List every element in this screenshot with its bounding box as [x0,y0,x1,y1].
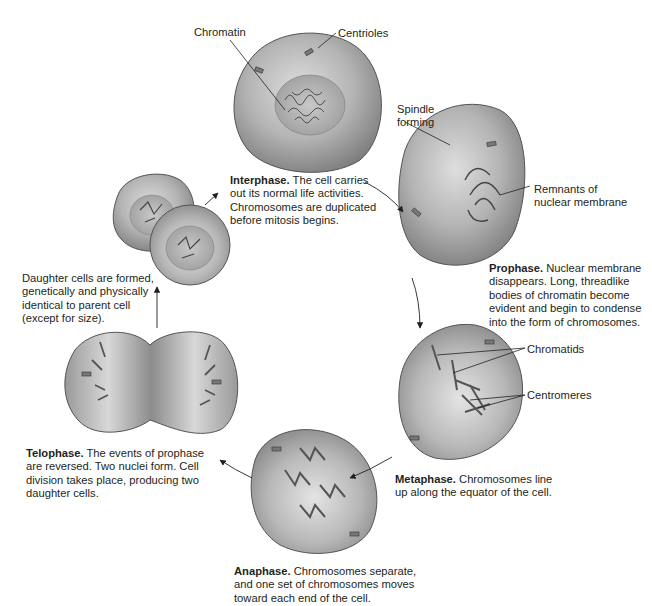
label-centrioles: Centrioles [338,27,388,40]
anaphase-caption: Anaphase. Chromosomes separate, and one … [234,565,424,605]
interphase-cell [234,33,381,172]
stage-name: Prophase. [489,262,543,274]
label-spindle-line1: Spindle [397,103,434,116]
interphase-caption: Interphase. The cell carries out its nor… [230,174,410,228]
stage-name: Interphase. [230,174,290,186]
label-remnants-line2: nuclear membrane [534,196,627,209]
label-chromatin: Chromatin [194,26,246,39]
stage-name: Anaphase. [234,565,291,577]
prophase-caption: Prophase. Nuclear membrane disappears. L… [489,262,652,329]
metaphase-caption: Metaphase. Chromosomes line up along the… [395,473,565,500]
metaphase-cell [399,324,523,459]
daughter-cells [113,174,230,285]
stage-name: Telophase. [26,447,84,459]
label-chromatids: Chromatids [527,343,584,356]
daughter-caption: Daughter cells are formed, genetically a… [22,272,182,326]
telophase-cell [65,332,238,434]
label-remnants-line1: Remnants of [534,183,597,196]
label-centromeres: Centromeres [527,389,592,402]
label-spindle-line2: forming [397,116,434,129]
anaphase-cell [251,430,377,554]
stage-name: Metaphase. [395,473,456,485]
telophase-caption: Telophase. The events of prophase are re… [26,447,226,501]
